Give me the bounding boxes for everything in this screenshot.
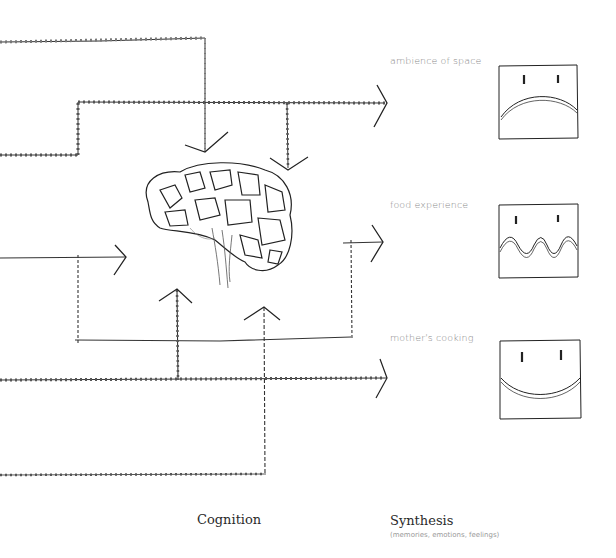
face-neutral-icon	[499, 204, 578, 278]
input-label-ambience: ambience of space	[390, 55, 481, 66]
face-sad-icon	[499, 65, 578, 139]
cognition-title: Cognition	[197, 512, 261, 527]
input-line-top	[0, 38, 228, 152]
input-label-food: food experience	[390, 199, 468, 210]
diagram-canvas	[0, 0, 616, 558]
synthesis-subtitle: (memories, emotions, feelings)	[390, 531, 499, 539]
input-line-third	[0, 225, 383, 345]
input-line-second	[0, 85, 387, 170]
face-happy-icon	[500, 340, 581, 419]
up-arrows	[159, 289, 280, 475]
input-line-fourth	[0, 359, 387, 398]
input-line-fifth	[0, 474, 266, 475]
input-label-cooking: mother's cooking	[390, 332, 473, 343]
synthesis-title: Synthesis	[390, 513, 453, 528]
brain-icon	[146, 163, 292, 288]
